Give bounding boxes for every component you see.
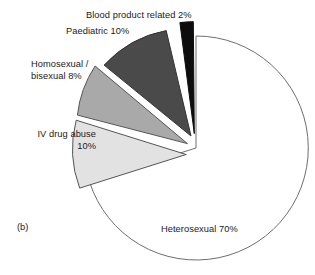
pie-chart-figure: Blood product related 2% Paediatric 10% … [0,0,315,275]
pie-label-iv-drug-abuse-line2: 10% [77,141,96,151]
pie-label-homosexual-bisexual: Homosexual /bisexual 8% [31,58,88,82]
pie-label-iv-drug-abuse-line1: IV drug abuse [37,129,96,139]
pie-label-homosexual-bisexual-line2: bisexual 8% [31,71,82,81]
pie-label-blood-product-related: Blood product related 2% [86,9,192,21]
figure-caption: (b) [17,222,28,232]
pie-label-paediatric: Paediatric 10% [66,25,129,37]
pie-label-iv-drug-abuse: IV drug abuse10% [12,128,96,152]
pie-label-heterosexual: Heterosexual 70% [161,223,238,235]
pie-label-homosexual-bisexual-line1: Homosexual / [31,59,88,69]
